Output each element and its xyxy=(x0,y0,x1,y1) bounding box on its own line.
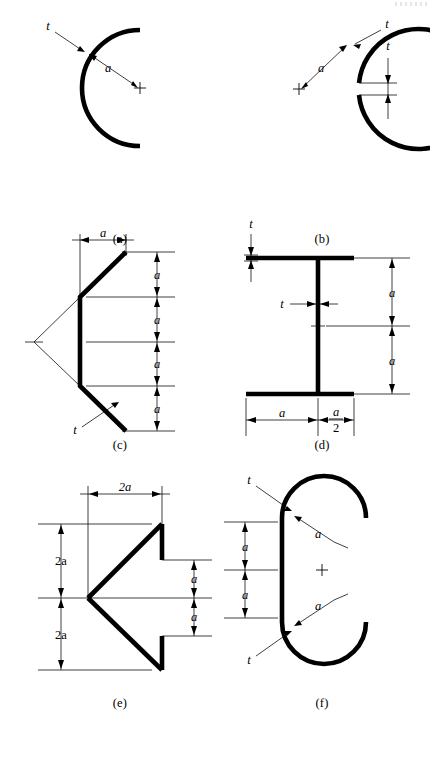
panel-d-label-h-bottom: a xyxy=(389,354,395,368)
panel-d-label-w-right-num: a xyxy=(333,405,339,419)
panel-c-drawing: a a a a a t xyxy=(12,212,228,444)
panel-a-label-a: a xyxy=(105,61,111,75)
chevron-lower-diagonal xyxy=(88,598,162,670)
construction-lines xyxy=(25,297,80,386)
width-extension-lines xyxy=(88,486,162,600)
dim-arrow-3-bottom xyxy=(154,376,160,385)
panel-a-label-t: t xyxy=(46,19,50,33)
figure-panel-d: t t a a xyxy=(214,212,430,462)
circular-ring-outline xyxy=(359,29,430,149)
dim-arrow-3-top xyxy=(154,343,160,352)
panel-c-label-t: t xyxy=(73,423,77,437)
centroid-mark xyxy=(316,564,328,576)
panel-b-label-a: a xyxy=(318,61,324,75)
figure-panel-e: 2a 2a 2a a xyxy=(12,470,228,720)
right-arrow-2-bottom xyxy=(191,626,197,635)
figure-panel-c: a a a a a t xyxy=(12,212,228,462)
panel-e-label-gap-top: a xyxy=(191,572,197,586)
panel-c-label-h2: a xyxy=(154,313,160,327)
thickness-arrow-head xyxy=(77,46,85,52)
zigzag-channel-outline xyxy=(80,252,126,431)
width-left-arrow-right xyxy=(308,417,317,423)
height-extension-lines xyxy=(326,258,410,394)
panel-e-label-h-top: 2a xyxy=(55,554,67,568)
arc-thickness-leader xyxy=(355,30,381,44)
left-arrow-1-top xyxy=(58,525,64,534)
figure-panel-f: t a a t a xyxy=(214,470,430,720)
centroid-mark xyxy=(134,82,146,94)
thickness-arrow-head xyxy=(111,402,119,408)
width-arrow-head-left xyxy=(80,237,89,243)
panel-d-drawing: t t a a xyxy=(214,212,430,444)
width-arrow-head-right xyxy=(117,237,126,243)
left-arrow-1-top xyxy=(242,523,248,532)
panel-a-drawing: a t xyxy=(12,6,228,238)
left-extension-lines xyxy=(38,524,152,670)
panel-d-caption: (d) xyxy=(214,438,430,453)
panel-d-label-t-web: t xyxy=(280,297,284,311)
right-arrow-2-top xyxy=(191,599,197,608)
figure-sheet: a t (a) a t xyxy=(0,0,433,757)
panel-e-caption: (e) xyxy=(12,696,228,711)
bottom-radius-arrow xyxy=(294,620,302,626)
panel-e-drawing: 2a 2a 2a a xyxy=(12,470,228,702)
left-extension-lines xyxy=(224,522,278,618)
panel-b-label-t-gap: t xyxy=(386,39,390,53)
left-arrow-1-bottom xyxy=(58,588,64,597)
web-t-arrow-left xyxy=(307,301,316,307)
radius-arrow-head-inner xyxy=(131,81,138,88)
panel-c-caption: (c) xyxy=(12,438,228,453)
panel-f-label-a-top: a xyxy=(315,527,321,541)
dim-arrow-2-bottom xyxy=(154,332,160,341)
panel-f-label-a-bottom: a xyxy=(315,599,321,613)
panel-f-label-t-top: t xyxy=(247,473,251,487)
panel-e-label-h-bottom: 2a xyxy=(55,628,67,642)
top-radius-arrow xyxy=(294,516,302,522)
width-left-arrow-left xyxy=(247,417,256,423)
panel-d-label-h-top: a xyxy=(389,286,395,300)
right-arrow-1-top xyxy=(191,561,197,570)
width-arrow-right xyxy=(152,491,161,497)
panel-d-label-t-flange: t xyxy=(249,217,253,231)
panel-f-caption: (f) xyxy=(214,696,430,711)
width-arrow-left xyxy=(89,491,98,497)
panel-e-label-width: 2a xyxy=(119,480,132,494)
panel-e-label-gap-bottom: a xyxy=(191,610,197,624)
centroid-mark xyxy=(293,83,305,95)
panel-f-label-t-bottom: t xyxy=(247,653,251,667)
height-arrow-1-top xyxy=(389,259,395,268)
height-arrow-1-bottom xyxy=(389,316,395,325)
radius-arrow-head-outer xyxy=(339,45,347,52)
panel-d-label-w-right-den: 2 xyxy=(333,421,339,435)
panel-f-label-a-left-upper: a xyxy=(242,540,248,554)
panel-f-drawing: t a a t a xyxy=(214,470,430,702)
left-arrow-2-top xyxy=(58,599,64,608)
gap-extension-lines xyxy=(359,83,397,95)
dim-arrow-4-bottom xyxy=(154,421,160,430)
top-radius-tail xyxy=(334,542,348,548)
left-arrow-2-bottom xyxy=(58,660,64,669)
arc-thickness-arrow-head xyxy=(353,44,361,49)
height-arrow-2-bottom xyxy=(389,384,395,393)
chevron-upper-diagonal xyxy=(88,524,162,598)
left-arrow-1-bottom xyxy=(242,560,248,569)
left-arrow-2-top xyxy=(242,571,248,580)
right-extension-lines xyxy=(152,560,212,636)
panel-c-label-h1: a xyxy=(154,268,160,282)
right-arrow-1-bottom xyxy=(191,588,197,597)
panel-c-label-width: a xyxy=(100,226,106,240)
left-arrow-2-bottom xyxy=(242,608,248,617)
panel-d-label-w-left: a xyxy=(279,406,285,420)
radius-leader-line xyxy=(303,46,346,87)
dim-arrow-1-bottom xyxy=(154,287,160,296)
bottom-radius-tail xyxy=(334,594,348,600)
panel-c-label-h3: a xyxy=(154,357,160,371)
panel-b-label-t-arc: t xyxy=(385,17,389,31)
web-t-arrow-right xyxy=(320,301,329,307)
dim-arrow-2-top xyxy=(154,298,160,307)
width-right-arrow-left xyxy=(319,417,328,423)
dim-arrow-4-top xyxy=(154,387,160,396)
width-right-arrow-right xyxy=(344,417,353,423)
panel-b-drawing: a t t xyxy=(214,6,430,238)
semicircular-arc-outline xyxy=(82,30,140,146)
